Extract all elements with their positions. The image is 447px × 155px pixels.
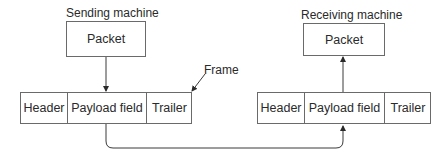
sender-frame: Header Payload field Trailer — [20, 92, 192, 124]
trailer-label: Trailer — [152, 101, 187, 115]
transmission-path — [106, 124, 343, 148]
frame-callout-label: Frame — [204, 63, 239, 77]
receiver-frame-payload: Payload field — [304, 93, 384, 123]
sender-frame-payload: Payload field — [67, 93, 146, 123]
sender-packet-label: Packet — [87, 32, 125, 46]
receiver-frame-header: Header — [258, 93, 304, 123]
receiver-frame: Header Payload field Trailer — [257, 92, 431, 124]
payload-label: Payload field — [309, 101, 381, 115]
receiver-packet-label: Packet — [325, 33, 363, 47]
header-label: Header — [24, 101, 65, 115]
sender-frame-header: Header — [21, 93, 67, 123]
sender-frame-trailer: Trailer — [146, 93, 192, 123]
receiving-machine-label: Receiving machine — [301, 8, 402, 22]
payload-label: Payload field — [71, 101, 143, 115]
sending-machine-label: Sending machine — [66, 6, 159, 20]
receiver-frame-trailer: Trailer — [384, 93, 431, 123]
header-label: Header — [261, 101, 302, 115]
receiver-packet-box: Packet — [303, 23, 385, 56]
sender-packet-box: Packet — [66, 21, 146, 57]
trailer-label: Trailer — [391, 101, 426, 115]
